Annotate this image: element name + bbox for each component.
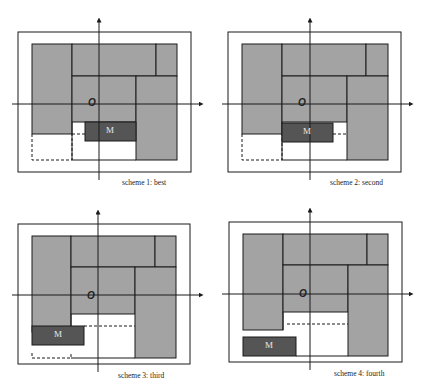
origin-label-1: O xyxy=(88,97,96,108)
block-right-tall xyxy=(135,267,176,358)
origin-label-3: O xyxy=(87,290,95,301)
module-label-2: M xyxy=(303,126,311,136)
scheme-2-panel xyxy=(222,20,411,180)
origin-label-2: O xyxy=(298,97,306,108)
block-top-right xyxy=(367,234,388,265)
block-top-middle xyxy=(71,236,155,267)
placement-schemes-figure xyxy=(0,0,428,388)
block-center xyxy=(283,265,348,312)
scheme-1-caption: scheme 1: best xyxy=(122,178,166,187)
block-right-tall xyxy=(348,265,388,356)
scheme-1-panel xyxy=(12,20,201,180)
scheme-3-panel xyxy=(12,212,201,372)
scheme-4-panel xyxy=(222,210,411,370)
block-top-middle xyxy=(282,44,366,76)
origin-label-4: O xyxy=(299,288,307,299)
block-left-column xyxy=(243,234,283,330)
block-right-tall xyxy=(347,76,388,160)
module-label-1: M xyxy=(106,125,114,135)
block-top-middle xyxy=(283,234,367,265)
scheme-2-caption: scheme 2: second xyxy=(330,178,383,187)
module-label-4: M xyxy=(265,340,273,350)
module-label-3: M xyxy=(54,329,62,339)
block-top-right xyxy=(156,44,177,76)
block-left-column xyxy=(32,236,71,332)
block-top-middle xyxy=(72,44,156,76)
block-top-right xyxy=(155,236,176,267)
block-center xyxy=(72,76,136,122)
block-left-column xyxy=(242,44,282,134)
dashed-candidate xyxy=(242,134,282,160)
block-center xyxy=(282,76,347,122)
scheme-4-caption: scheme 4: fourth xyxy=(334,369,384,378)
block-center xyxy=(71,267,135,314)
block-right-tall xyxy=(136,76,177,160)
block-top-right xyxy=(366,44,388,76)
scheme-3-caption: scheme 3: third xyxy=(118,371,164,380)
dashed-candidate xyxy=(32,353,71,358)
dashed-candidate xyxy=(32,134,72,160)
block-left-column xyxy=(32,44,72,134)
